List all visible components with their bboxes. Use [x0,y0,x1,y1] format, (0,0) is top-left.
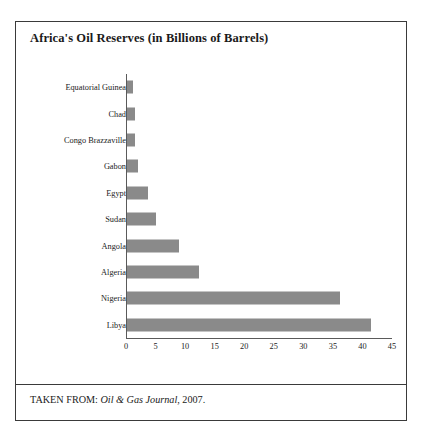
bar-row: Congo Brazzaville [16,127,408,153]
x-axis-tick-label: 45 [388,342,396,351]
bar-track [126,127,408,153]
source-journal: Oil & Gas Journal [101,394,178,405]
bar-category-label: Nigeria [101,294,126,303]
figure-container: Africa's Oil Reserves (in Billions of Ba… [15,21,407,421]
bar-row: Sudan [16,206,408,232]
bar-category-label: Algeria [101,267,126,276]
bar-row: Nigeria [16,285,408,311]
bar-category-label: Gabon [104,162,126,171]
x-axis-tick-label: 0 [124,342,128,351]
bar-category-label: Chad [108,109,126,118]
bar-track [126,180,408,206]
bar-track [126,259,408,285]
bar-row: Gabon [16,153,408,179]
bar [126,186,148,199]
footer-divider [16,384,406,385]
source-prefix: TAKEN FROM: [30,394,98,405]
y-axis-line [126,74,127,338]
bar-category-label: Egypt [106,188,126,197]
x-axis-ticks: 051015202530354045 [16,342,408,358]
x-axis-line [126,338,392,339]
bar-category-label: Congo Brazzaville [64,135,126,144]
bar-row: Chad [16,100,408,126]
x-axis-tick-label: 25 [270,342,278,351]
x-axis-tick-label: 20 [240,342,248,351]
x-axis-tick-label: 10 [181,342,189,351]
bar-track [126,232,408,258]
bar-track [126,312,408,338]
bar-row: Egypt [16,180,408,206]
bar-row: Angola [16,232,408,258]
bar [126,265,199,278]
bar [126,239,179,252]
bar [126,292,340,305]
bar-row: Equatorial Guinea [16,74,408,100]
bar-row: Libya [16,312,408,338]
page-title: Africa's Oil Reserves (in Billions of Ba… [30,31,268,46]
bar [126,213,156,226]
bar [126,107,135,120]
bar-track [126,285,408,311]
source-suffix: , 2007. [177,394,205,405]
x-axis-tick-label: 40 [358,342,366,351]
x-axis-tick-label: 30 [299,342,307,351]
bar-track [126,153,408,179]
bar-row: Algeria [16,259,408,285]
bar [126,133,135,146]
bar [126,81,133,94]
bar-track [126,206,408,232]
source-attribution: TAKEN FROM: Oil & Gas Journal, 2007. [30,394,205,405]
x-axis-tick-label: 35 [329,342,337,351]
bar [126,160,138,173]
x-axis-tick-label: 15 [211,342,219,351]
bar-category-label: Angola [102,241,126,250]
chart-plot-area: Equatorial GuineaChadCongo BrazzavilleGa… [16,74,408,364]
bar-track [126,74,408,100]
bar-category-label: Equatorial Guinea [65,83,126,92]
bar-category-label: Libya [107,320,126,329]
bar-rows: Equatorial GuineaChadCongo BrazzavilleGa… [16,74,408,338]
bar-track [126,100,408,126]
bar-category-label: Sudan [105,215,126,224]
bar [126,318,371,331]
x-axis-tick-label: 5 [153,342,157,351]
